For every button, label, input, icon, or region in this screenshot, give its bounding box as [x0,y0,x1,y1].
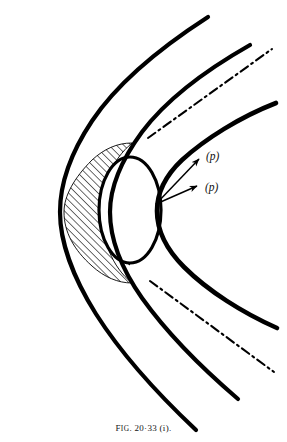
pressure-label-upper: (p) [206,150,220,163]
figure-drawing: (p) (p) [0,0,287,442]
pressure-label-lower: (p) [205,181,219,194]
figure-caption: FIG. 20·33 (i). [0,423,287,433]
caption-number: . 20·33 (i). [129,423,171,433]
figure-container: (p) (p) FIG. 20·33 (i). [0,0,287,442]
